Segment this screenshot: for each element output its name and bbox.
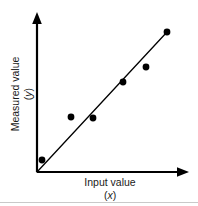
y-axis-label-line1: Measured value xyxy=(9,56,21,131)
data-point xyxy=(164,29,171,36)
y-axis-label-group: Measured value (y) xyxy=(9,56,34,131)
x-axis-label-paren-close: ) xyxy=(113,189,117,201)
data-point xyxy=(90,115,97,122)
x-axis-label-group: Input value (x) xyxy=(84,176,136,201)
data-point xyxy=(39,157,46,164)
x-axis-label-line1: Input value xyxy=(84,176,136,188)
scatter-plot: Input value (x) Measured value (y) xyxy=(0,0,198,206)
data-point xyxy=(120,79,127,86)
x-axis-label-variable: (x) xyxy=(104,189,116,201)
bottom-divider xyxy=(0,202,198,203)
trend-line xyxy=(37,32,167,172)
figure-root: Input value (x) Measured value (y) xyxy=(0,0,198,206)
y-axis-arrowhead-icon xyxy=(32,12,42,24)
x-axis-arrowhead-icon xyxy=(177,167,189,177)
y-axis-label-variable: (y) xyxy=(22,88,34,100)
trend-line-group xyxy=(37,32,167,172)
data-point xyxy=(68,114,75,121)
y-axis-label-paren-close: ) xyxy=(22,88,34,92)
data-point xyxy=(143,64,150,71)
